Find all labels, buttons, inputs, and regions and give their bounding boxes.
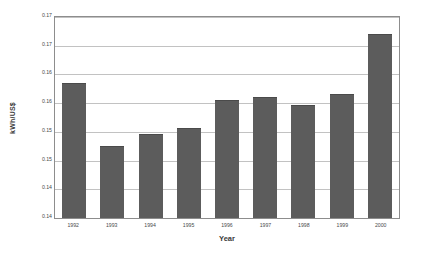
bar-1999[interactable] bbox=[330, 94, 354, 218]
bar-1993[interactable] bbox=[100, 146, 124, 218]
bar-slot bbox=[246, 17, 284, 218]
x-axis-tick-label: 1994 bbox=[131, 221, 169, 233]
x-axis-tick-label: 1999 bbox=[323, 221, 361, 233]
bar-1994[interactable] bbox=[139, 134, 163, 218]
y-axis-tick-label: 0.14 bbox=[26, 186, 52, 191]
bar-1995[interactable] bbox=[177, 128, 201, 218]
plot-area bbox=[54, 16, 400, 219]
bar-slot bbox=[93, 17, 131, 218]
x-axis-title: Year bbox=[54, 234, 400, 243]
bar-1996[interactable] bbox=[215, 100, 239, 218]
x-axis-tick-label: 1993 bbox=[92, 221, 130, 233]
gridline bbox=[55, 218, 399, 219]
bar-chart-figure: kWh/US$ 0.170.170.160.160.150.150.140.14… bbox=[0, 0, 423, 257]
x-axis-tick-label: 1995 bbox=[169, 221, 207, 233]
bar-2000[interactable] bbox=[368, 34, 392, 218]
bar-1998[interactable] bbox=[291, 105, 315, 218]
y-axis-tick-label-group: 0.170.170.160.160.150.150.140.14 bbox=[26, 14, 52, 220]
y-axis-tick-label: 0.16 bbox=[26, 71, 52, 76]
x-axis-tick-label: 1998 bbox=[285, 221, 323, 233]
y-axis-tick-label: 0.17 bbox=[26, 42, 52, 47]
x-axis-tick-label: 1996 bbox=[208, 221, 246, 233]
bar-slot bbox=[284, 17, 322, 218]
bar-1992[interactable] bbox=[62, 83, 86, 218]
y-axis-title: kWh/US$ bbox=[9, 78, 21, 158]
y-axis-tick-label: 0.15 bbox=[26, 128, 52, 133]
bar-slot bbox=[323, 17, 361, 218]
y-axis-tick-label: 0.17 bbox=[26, 13, 52, 18]
x-axis-tick-label: 2000 bbox=[362, 221, 400, 233]
x-axis-tick-label: 1992 bbox=[54, 221, 92, 233]
y-axis-tick-label: 0.16 bbox=[26, 100, 52, 105]
x-axis-tick-label-group: 199219931994199519961997199819992000 bbox=[54, 221, 400, 233]
y-axis-tick-label: 0.14 bbox=[26, 214, 52, 219]
bar-slot bbox=[55, 17, 93, 218]
x-axis-tick-label: 1997 bbox=[246, 221, 284, 233]
bar-slot bbox=[131, 17, 169, 218]
bar-slot bbox=[208, 17, 246, 218]
bar-slot bbox=[170, 17, 208, 218]
bar-1997[interactable] bbox=[253, 97, 277, 218]
y-axis-tick-label: 0.15 bbox=[26, 157, 52, 162]
bars-layer bbox=[55, 17, 399, 218]
bar-slot bbox=[361, 17, 399, 218]
